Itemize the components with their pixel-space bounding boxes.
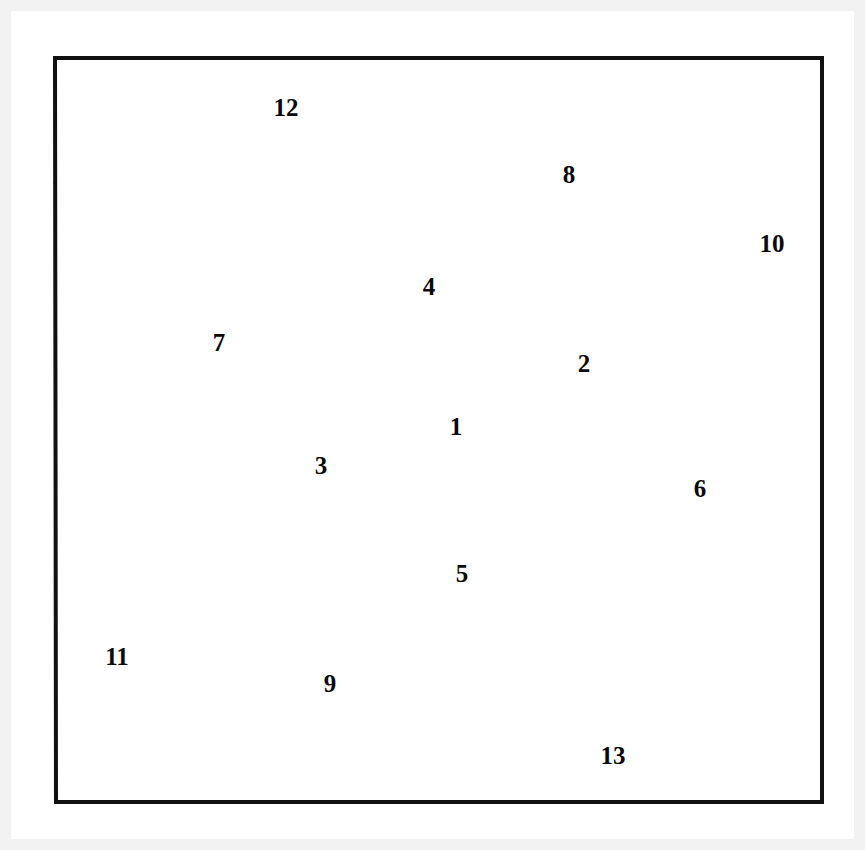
region-3-label: 3 xyxy=(315,452,328,479)
region-9-label: 9 xyxy=(324,670,337,697)
region-6-label: 6 xyxy=(694,475,707,502)
region-10-label: 10 xyxy=(760,230,785,257)
region-2-label: 2 xyxy=(578,350,591,377)
outer-frame xyxy=(55,58,822,802)
region-13-label: 13 xyxy=(601,742,626,769)
region-12-label: 12 xyxy=(274,94,299,121)
puzzle-figure-page: 12345678910111213 xyxy=(0,0,865,850)
region-5-label: 5 xyxy=(456,560,469,587)
region-1-label: 1 xyxy=(450,413,463,440)
region-11-label: 11 xyxy=(105,643,129,670)
dissection-diagram: 12345678910111213 xyxy=(0,0,865,850)
region-8-label: 8 xyxy=(563,161,576,188)
region-7-label: 7 xyxy=(213,329,226,356)
region-4-label: 4 xyxy=(423,273,436,300)
